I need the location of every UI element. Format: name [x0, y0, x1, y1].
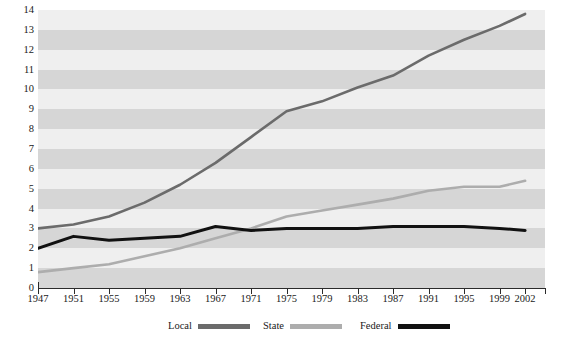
legend-label: State	[263, 320, 284, 332]
x-axis-tick-label: 1991	[409, 293, 449, 305]
y-axis-tick-label: 0	[4, 283, 34, 293]
x-axis-tick	[109, 288, 110, 294]
y-axis-tick-label: 4	[4, 204, 34, 214]
x-axis-tick	[180, 288, 181, 294]
chart-container: 01234567891011121314 1947195119551959196…	[0, 0, 565, 347]
x-axis-tick	[525, 288, 526, 294]
x-axis-tick-label: 1963	[160, 293, 200, 305]
x-axis-tick-label: 1975	[267, 293, 307, 305]
y-axis-tick-label: 2	[4, 243, 34, 253]
x-axis-tick-label: 1971	[231, 293, 271, 305]
y-axis-tick-label: 13	[4, 25, 34, 35]
y-axis-tick-label: 7	[4, 144, 34, 154]
x-axis-tick-label: 1947	[18, 293, 58, 305]
x-axis-tick	[74, 288, 75, 294]
x-axis-tick-label: 1959	[125, 293, 165, 305]
x-axis-labels: 1947195119551959196319671971197519791983…	[0, 293, 565, 309]
x-axis-tick-label: 1967	[196, 293, 236, 305]
y-axis-labels: 01234567891011121314	[0, 0, 34, 300]
x-axis-tick	[429, 288, 430, 294]
x-axis-tick	[38, 288, 39, 294]
x-axis-tick	[251, 288, 252, 294]
legend-label: Local	[168, 320, 192, 332]
y-axis-tick-label: 1	[4, 263, 34, 273]
x-axis-tick	[464, 288, 465, 294]
x-axis-tick	[500, 288, 501, 294]
y-axis-tick-label: 8	[4, 124, 34, 134]
x-axis-tick-label: 1987	[373, 293, 413, 305]
series-line-federal	[38, 226, 525, 248]
x-axis-tick-label: 2002	[505, 293, 545, 305]
x-axis-tick	[322, 288, 323, 294]
x-axis-tick	[393, 288, 394, 294]
legend-label: Federal	[360, 320, 392, 332]
x-axis-tick	[358, 288, 359, 294]
legend-item-local[interactable]: Local	[168, 320, 250, 332]
y-axis-tick-label: 12	[4, 45, 34, 55]
legend-item-federal[interactable]: Federal	[360, 320, 450, 332]
legend-swatch	[290, 324, 342, 329]
legend-swatch	[398, 324, 450, 329]
chart-lines	[38, 10, 545, 288]
legend-swatch	[198, 324, 250, 329]
y-axis-tick-label: 14	[4, 5, 34, 15]
x-axis-tick-label: 1979	[302, 293, 342, 305]
chart-legend: LocalStateFederal	[0, 320, 565, 338]
series-line-local	[38, 14, 525, 228]
x-axis-tick	[145, 288, 146, 294]
y-axis-tick-label: 5	[4, 184, 34, 194]
x-axis-tick	[216, 288, 217, 294]
x-axis-tick-label: 1951	[54, 293, 94, 305]
y-axis-tick-label: 6	[4, 164, 34, 174]
x-axis-tick-label: 1995	[444, 293, 484, 305]
x-axis-line	[38, 288, 545, 289]
y-axis-tick-label: 3	[4, 223, 34, 233]
x-axis-tick-label: 1983	[338, 293, 378, 305]
y-axis-tick-label: 11	[4, 65, 34, 75]
y-axis-tick-label: 10	[4, 84, 34, 94]
y-axis-tick-label: 9	[4, 104, 34, 114]
x-axis-tick	[287, 288, 288, 294]
legend-item-state[interactable]: State	[263, 320, 342, 332]
x-axis-tick-label: 1955	[89, 293, 129, 305]
x-axis-end-tick	[545, 288, 546, 294]
